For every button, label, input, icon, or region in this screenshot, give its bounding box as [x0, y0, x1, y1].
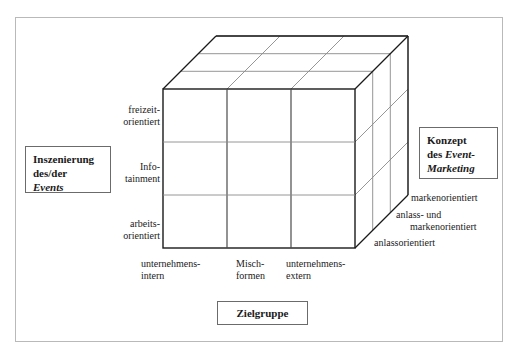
cube-front-face — [163, 89, 355, 248]
x-tick-0-line-1: unternehmens- — [141, 258, 200, 270]
x-axis-tick-unternehmens-intern: unternehmens- intern — [141, 258, 200, 282]
z-tick-1-line-1: anlass- und — [396, 209, 477, 221]
z-tick-0-line-1: markenorientiert — [411, 192, 478, 204]
z-axis-tick-markenorientiert: markenorientiert — [411, 192, 478, 204]
konzept-line-3: Marketing — [427, 161, 490, 175]
y-axis-tick-freizeit-orientiert: freizeit- orientiert — [98, 104, 160, 128]
z-axis-tick-anlassorientiert: anlassorientiert — [374, 237, 435, 249]
event-marketing-cube-figure: Inszenierung des/der Events Konzept des … — [0, 0, 521, 359]
x-tick-2-line-2: extern — [286, 270, 345, 282]
x-tick-1-line-2: formen — [236, 270, 265, 282]
konzept-line-1: Konzept — [427, 133, 490, 147]
y-tick-1-line-1: Info- — [98, 161, 160, 173]
x-tick-2-line-1: unternehmens- — [286, 258, 345, 270]
y-tick-0-line-1: freizeit- — [98, 104, 160, 116]
z-axis-tick-anlass-und-markenorientiert: anlass- und markenorientiert — [396, 209, 477, 233]
x-tick-0-line-2: intern — [141, 270, 200, 282]
inszenierung-line-2: des/der — [33, 166, 103, 180]
cube-top-face-grid — [181, 36, 391, 89]
label-box-zielgruppe: Zielgruppe — [217, 301, 308, 325]
inszenierung-line-1: Inszenierung — [33, 152, 103, 166]
konzept-line-2-italic: Event- — [445, 148, 475, 160]
label-box-konzept: Konzept des Event- Marketing — [419, 127, 498, 179]
y-axis-tick-arbeits-orientiert: arbeits- orientiert — [98, 218, 160, 242]
zielgruppe-label: Zielgruppe — [237, 307, 289, 319]
x-tick-1-line-1: Misch- — [236, 258, 265, 270]
x-axis-tick-mischformen: Misch- formen — [236, 258, 265, 282]
y-tick-2-line-2: orientiert — [98, 230, 160, 242]
x-axis-tick-unternehmens-extern: unternehmens- extern — [286, 258, 345, 282]
y-tick-1-line-2: tainment — [98, 173, 160, 185]
z-tick-1-line-2: markenorientiert — [396, 221, 477, 233]
y-tick-2-line-1: arbeits- — [98, 218, 160, 230]
konzept-line-2-prefix: des — [427, 148, 445, 160]
cube-front-face-grid — [163, 89, 355, 248]
y-axis-tick-infotainment: Info- tainment — [98, 161, 160, 185]
konzept-line-2: des Event- — [427, 147, 490, 161]
z-tick-2-line-1: anlassorientiert — [374, 237, 435, 249]
y-tick-0-line-2: orientiert — [98, 116, 160, 128]
inszenierung-line-3: Events — [33, 180, 103, 194]
